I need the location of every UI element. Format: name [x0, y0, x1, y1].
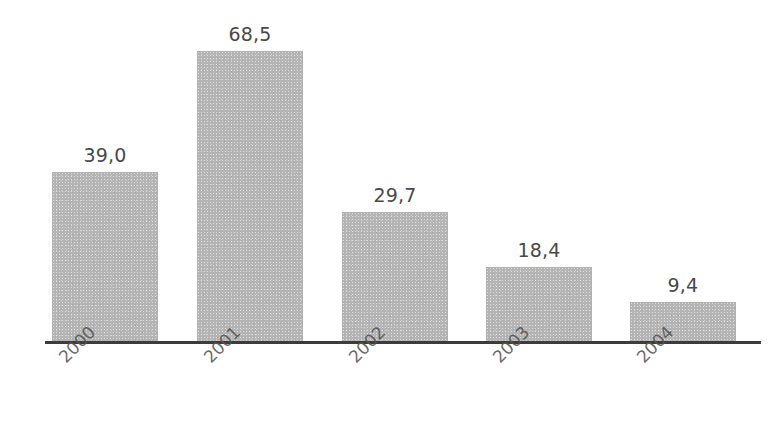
bar-chart: 39,0 68,5 29,7 18,4 9,4 2000 2001 2002 2… [0, 0, 781, 422]
bar-2003 [486, 267, 592, 341]
value-label-2004: 9,4 [630, 276, 736, 295]
bar-2001 [197, 51, 303, 341]
value-label-2001: 68,5 [197, 25, 303, 44]
value-label-2000: 39,0 [52, 146, 158, 165]
bar-2002 [342, 212, 448, 341]
bar-2000 [52, 172, 158, 341]
bar-2004 [630, 302, 736, 341]
value-label-2002: 29,7 [342, 186, 448, 205]
value-label-2003: 18,4 [486, 241, 592, 260]
